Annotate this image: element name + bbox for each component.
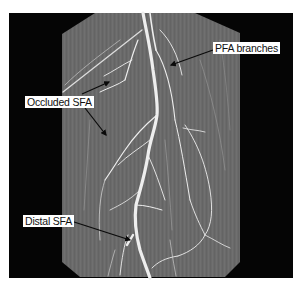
angiogram-figure: PFA branches Occluded SFA Distal SFA xyxy=(0,0,302,286)
label-distal-sfa: Distal SFA xyxy=(23,215,74,227)
label-pfa-branches: PFA branches xyxy=(213,42,280,54)
label-occluded-sfa: Occluded SFA xyxy=(25,96,94,108)
